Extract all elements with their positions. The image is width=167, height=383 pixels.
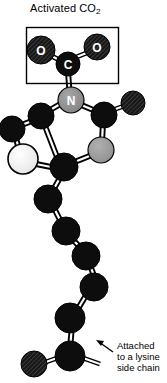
activated-co2-label-subscript: 2 xyxy=(96,7,101,16)
atom-sulfur xyxy=(8,144,38,174)
atom-chain-carbon-3 xyxy=(72,242,100,270)
atoms-group: O O C N xyxy=(0,34,145,377)
activated-co2-label: Activated CO2 xyxy=(30,3,101,15)
atom-carbon-ring-far-left xyxy=(0,116,25,142)
atom-oxygen-left: O xyxy=(27,36,55,64)
atom-carbon-co2: C xyxy=(56,52,80,76)
atom-chain-carbon-4 xyxy=(80,273,108,301)
bond-c1-c5 xyxy=(45,126,57,157)
lysine-side-chain-label: Attached to a lysine side chain xyxy=(117,340,167,374)
atom-chain-carbon-terminal xyxy=(55,341,85,371)
molecule-diagram: O O C N xyxy=(0,0,167,383)
lysine-label-line-1: Attached xyxy=(117,340,155,351)
atom-label-nitrogen: N xyxy=(67,94,76,108)
atom-carbon-ring-bottom xyxy=(50,153,78,181)
atom-chain-carbon-1 xyxy=(34,185,62,213)
figure-canvas: O O C N xyxy=(0,0,167,383)
atom-oxygen-right: O xyxy=(84,34,110,60)
atom-nitrogen: N xyxy=(58,87,84,113)
atom-chain-carbon-5 xyxy=(55,303,85,333)
activated-co2-label-main: Activated CO xyxy=(30,2,96,14)
lysine-pointer-arrow xyxy=(96,340,113,352)
atom-carbon-ring-right xyxy=(91,102,117,128)
atom-label-carbon-co2: C xyxy=(64,58,73,72)
lysine-label-line-2: to a lysine xyxy=(117,351,160,362)
atom-carbon-ring-gray xyxy=(88,137,114,163)
atom-label-oxygen-left: O xyxy=(36,44,45,58)
atom-oxygen-terminal xyxy=(21,351,47,377)
atom-oxygen-ring-right xyxy=(121,91,145,115)
lysine-label-line-3: side chain xyxy=(117,362,160,373)
atom-carbon-ring-upper-left xyxy=(28,103,54,129)
atom-label-oxygen-right: O xyxy=(92,41,101,55)
atom-chain-carbon-2 xyxy=(52,217,80,245)
